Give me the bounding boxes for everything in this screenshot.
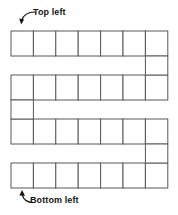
grid-cell-r2-c6 [123,75,145,100]
grid-cell-r1-c4 [78,31,100,56]
grid-cell-r4-c1 [11,163,33,188]
grid-cell-r3-c2 [33,119,55,144]
grid-cell-r3-c7 [145,119,167,144]
grid-cell-r3-c3 [56,119,78,144]
grid-cell-r4-c7 [145,163,167,188]
grid-cell-r3-c5 [101,119,123,144]
grid-cell-r4-c2 [33,163,55,188]
grid-cell-r2-c1 [11,75,33,100]
grid-connector-left-2 [11,100,33,119]
grid-connector-right-3 [145,144,167,163]
grid-cell-r1-c5 [101,31,123,56]
grid-cell-r4-c3 [56,163,78,188]
grid-cell-r2-c2 [33,75,55,100]
grid-cell-r2-c7 [145,75,167,100]
grid-cell-r2-c5 [101,75,123,100]
grid-cell-r2-c3 [56,75,78,100]
annotation-label-top-left: Top left [33,7,66,17]
grid-cell-r3-c4 [78,119,100,144]
grid-cell-r4-c5 [101,163,123,188]
grid-cell-r3-c6 [123,119,145,144]
grid-cell-r1-c2 [33,31,55,56]
grid-cell-r4-c4 [78,163,100,188]
grid-cell-r1-c7 [145,31,167,56]
serpentine-grid [0,0,178,215]
grid-connector-right-1 [145,56,167,75]
grid-cell-r2-c4 [78,75,100,100]
grid-cell-r3-c1 [11,119,33,144]
grid-cell-r4-c6 [123,163,145,188]
figure-canvas: Top left Bottom left [0,0,178,215]
grid-cell-r1-c1 [11,31,33,56]
annotation-label-bottom-left: Bottom left [30,195,79,205]
grid-cell-r1-c3 [56,31,78,56]
grid-cells-layer [11,31,168,188]
grid-cell-r1-c6 [123,31,145,56]
